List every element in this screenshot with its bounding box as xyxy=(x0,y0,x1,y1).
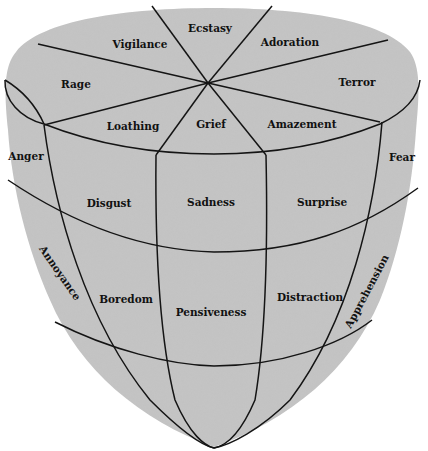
label-anger: Anger xyxy=(7,150,44,162)
label-boredom: Boredom xyxy=(99,293,153,305)
label-disgust: Disgust xyxy=(87,197,132,209)
label-fear: Fear xyxy=(389,151,415,163)
emotion-cone-diagram: Vigilance Ecstasy Adoration Rage Terror … xyxy=(0,0,428,451)
label-grief: Grief xyxy=(196,118,227,130)
label-sadness: Sadness xyxy=(187,196,235,208)
label-ecstasy: Ecstasy xyxy=(188,22,233,34)
label-pensiveness: Pensiveness xyxy=(176,306,247,318)
label-surprise: Surprise xyxy=(297,196,348,208)
label-loathing: Loathing xyxy=(107,120,160,132)
label-amazement: Amazement xyxy=(267,118,337,130)
label-vigilance: Vigilance xyxy=(112,38,168,50)
label-adoration: Adoration xyxy=(260,36,320,48)
label-terror: Terror xyxy=(339,76,376,88)
label-rage: Rage xyxy=(61,78,91,90)
label-distraction: Distraction xyxy=(277,291,343,303)
